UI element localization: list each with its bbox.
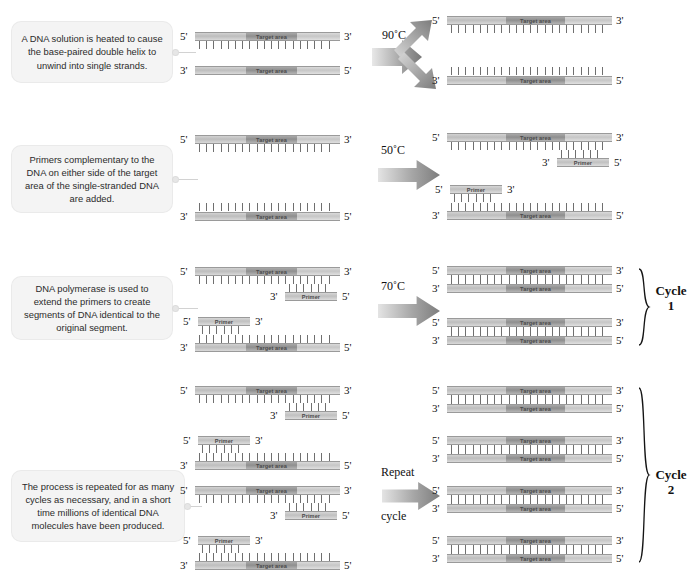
teeth-primer-r2-2	[453, 194, 499, 202]
strand-segment-target: Target area	[506, 505, 565, 512]
base-pair-tick	[321, 453, 322, 461]
base-pair-tick	[516, 275, 517, 284]
base-pair-tick	[602, 495, 603, 504]
base-pair-tick	[523, 445, 524, 454]
base-pair-tick	[573, 25, 574, 33]
base-pair-tick	[559, 545, 560, 554]
base-pair-tick	[552, 327, 553, 336]
strand-segment-target: Target area	[506, 77, 565, 84]
target-area-label: Target area	[246, 463, 297, 469]
base-pair-tick	[249, 144, 250, 152]
teeth-r4-L4	[198, 553, 337, 561]
base-pair-tick	[199, 203, 200, 211]
strand-segment-target: Target area	[506, 319, 565, 326]
strand-segment-flank-r	[297, 213, 340, 220]
base-pair-tick	[242, 276, 243, 284]
base-pair-tick	[581, 327, 582, 336]
base-pair-tick	[552, 495, 553, 504]
primer-label: Primer	[198, 438, 250, 444]
strand-segment-flank-r	[297, 387, 340, 394]
base-pair-tick	[314, 276, 315, 284]
base-pair-tick	[451, 203, 452, 211]
end-label-3p: 3'	[616, 485, 623, 496]
base-pair-tick	[537, 67, 538, 75]
base-pair-tick	[216, 545, 217, 553]
base-pair-tick	[559, 275, 560, 284]
base-pair-tick	[573, 67, 574, 75]
base-pair-tick	[300, 41, 301, 49]
base-pair-tick	[300, 453, 301, 461]
strand-segment-target: Target area	[506, 437, 565, 444]
base-pair-tick	[271, 276, 272, 284]
end-label-3p: 3'	[180, 460, 187, 471]
base-pair-tick	[451, 67, 452, 75]
base-pair-tick	[494, 545, 495, 554]
end-label-5p: 5'	[616, 283, 623, 294]
end-label-3p: 3'	[432, 503, 439, 514]
base-pair-tick	[257, 203, 258, 211]
primer-strand-r2-1: Primer	[557, 158, 609, 167]
base-pair-tick	[199, 144, 200, 152]
base-pair-tick	[329, 395, 330, 403]
base-pair-tick	[329, 453, 330, 461]
base-pair-tick	[552, 25, 553, 33]
base-pair-tick	[216, 445, 217, 453]
base-pair-tick	[458, 142, 459, 150]
base-pair-tick	[264, 276, 265, 284]
strand-segment-flank-r	[565, 405, 612, 412]
base-pair-tick	[221, 203, 222, 211]
primer-label: Primer	[285, 294, 337, 300]
base-pair-tick	[235, 495, 236, 503]
base-pair-tick	[465, 327, 466, 336]
base-pair-tick	[465, 495, 466, 504]
base-pair-tick	[465, 25, 466, 33]
base-pair-tick	[552, 275, 553, 284]
teeth-primer-r3-1	[288, 284, 334, 292]
target-area-label: Target area	[506, 78, 565, 84]
base-pair-tick	[221, 453, 222, 461]
dna-strand-duplex-bottom-r4-3: Target area	[447, 504, 612, 513]
base-pair-tick	[523, 67, 524, 75]
end-label-5p: 5'	[344, 560, 351, 571]
base-pair-tick	[289, 503, 290, 511]
base-pair-tick	[221, 495, 222, 503]
base-pair-tick	[318, 284, 319, 292]
base-pair-tick	[264, 41, 265, 49]
base-pair-tick	[480, 25, 481, 33]
base-pair-tick	[523, 142, 524, 150]
strand-segment-flank-l	[447, 77, 506, 84]
base-pair-tick	[454, 194, 455, 202]
base-pair-tick	[537, 25, 538, 33]
target-area-label: Target area	[506, 213, 565, 219]
callout-leader-line	[188, 506, 202, 507]
strand-segment-target: Target area	[246, 67, 297, 74]
base-pair-tick	[530, 275, 531, 284]
base-pair-tick	[494, 142, 495, 150]
base-pair-tick	[516, 25, 517, 33]
base-pair-tick	[238, 545, 239, 553]
base-pair-tick	[257, 553, 258, 561]
base-pair-tick	[595, 203, 596, 211]
base-pair-tick	[523, 495, 524, 504]
base-pair-tick	[509, 203, 510, 211]
dna-strand-duplex-bottom-r3-2: Target area	[447, 336, 612, 345]
strand-segment-flank-l	[447, 17, 506, 24]
end-label-3p: 3'	[616, 317, 623, 328]
base-pair-tick	[329, 203, 330, 211]
base-pair-tick	[278, 335, 279, 343]
dna-strand-single-a-r2: Target area	[195, 135, 340, 144]
end-label-5p: 5'	[183, 316, 190, 327]
dna-strand-single-b-r1: Target area	[447, 76, 612, 85]
strand-segment-flank-l	[447, 555, 506, 562]
teeth-primer-r4-L2	[201, 445, 247, 453]
base-pair-tick	[581, 495, 582, 504]
base-pair-tick	[465, 395, 466, 404]
base-pair-tick	[321, 41, 322, 49]
base-pair-tick	[487, 327, 488, 336]
strand-segment-target: Target area	[506, 337, 565, 344]
strand-segment-flank-r	[565, 17, 612, 24]
base-pair-tick	[242, 203, 243, 211]
base-pair-tick	[487, 67, 488, 75]
end-label-3p: 3'	[432, 210, 439, 221]
base-pair-tick	[501, 327, 502, 336]
